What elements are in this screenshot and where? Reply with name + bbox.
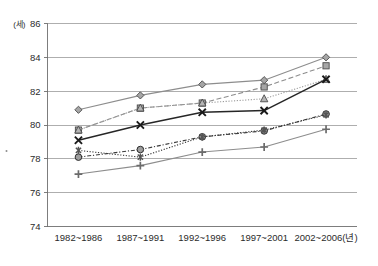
marker-plus bbox=[322, 125, 330, 133]
y-tick-label-76: 76 bbox=[30, 187, 41, 198]
marker-circle bbox=[75, 154, 82, 161]
y-axis-tick-labels: 74767880828486 bbox=[30, 18, 41, 232]
x-tick-label-3: 1997~2001 bbox=[240, 232, 288, 243]
marker-plus bbox=[136, 162, 144, 170]
y-axis-unit-label: (세) bbox=[13, 20, 26, 29]
marker-asterisk bbox=[138, 154, 143, 161]
marker-asterisk bbox=[76, 147, 81, 154]
marker-plus bbox=[198, 148, 206, 156]
y-tick-label-82: 82 bbox=[30, 86, 41, 97]
marker-diamond bbox=[261, 77, 268, 84]
marker-triangle bbox=[260, 95, 267, 102]
x-axis-tick-labels: 1982~19861987~19911992~19961997~20012002… bbox=[55, 232, 358, 243]
gridlines bbox=[48, 24, 358, 193]
marker-diamond bbox=[199, 81, 206, 88]
marker-square bbox=[323, 63, 329, 69]
series-group bbox=[75, 54, 330, 178]
marker-square bbox=[261, 84, 267, 90]
scan-artifact-dot bbox=[6, 150, 8, 152]
marker-diamond bbox=[75, 106, 82, 113]
line-chart-figure: 74767880828486(세)1982~19861987~19911992~… bbox=[0, 0, 378, 266]
x-tick-label-0: 1982~1986 bbox=[55, 232, 103, 243]
x-tick-label-2: 1992~1996 bbox=[178, 232, 226, 243]
y-tick-label-74: 74 bbox=[30, 221, 41, 232]
marker-circle bbox=[137, 146, 144, 153]
series-square bbox=[75, 63, 329, 133]
y-tick-label-84: 84 bbox=[30, 52, 41, 63]
marker-diamond bbox=[137, 92, 144, 99]
y-tick-label-80: 80 bbox=[30, 119, 41, 130]
chart-canvas: 74767880828486(세)1982~19861987~19911992~… bbox=[0, 0, 378, 266]
y-tick-label-78: 78 bbox=[30, 153, 41, 164]
marker-plus bbox=[75, 170, 83, 178]
marker-diamond bbox=[322, 54, 329, 61]
y-tick-label-86: 86 bbox=[30, 18, 41, 29]
x-tick-label-1: 1987~1991 bbox=[116, 232, 164, 243]
x-tick-label-4: 2002~2006(년) bbox=[294, 232, 357, 243]
marker-plus bbox=[260, 143, 268, 151]
